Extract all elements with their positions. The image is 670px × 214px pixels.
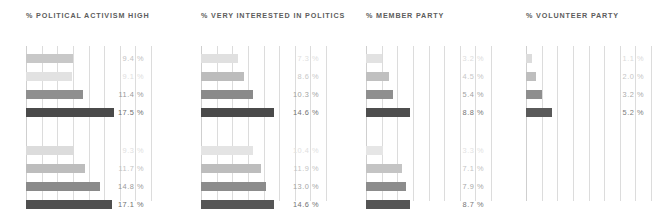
bar-fill — [201, 72, 244, 81]
bar-value-label: 9.4 % — [98, 54, 144, 63]
bar-value-label: 11.9 % — [273, 164, 319, 173]
bar-value-label: 3.3 % — [438, 146, 484, 155]
bar-fill — [201, 54, 238, 63]
bar-value-label: 9.1 % — [98, 72, 144, 81]
bar-fill — [26, 146, 73, 155]
chart-panel: % VOLUNTEER PARTY1.1 %2.0 %3.2 %5.2 % — [500, 0, 670, 214]
bar-fill — [366, 54, 382, 63]
panel-title: % VERY INTERESTED IN POLITICS — [201, 11, 345, 21]
bar-value-label: 3.2 % — [598, 90, 644, 99]
bar-fill — [526, 54, 532, 63]
bar-fill — [526, 90, 542, 99]
bar — [526, 72, 536, 81]
bar-value-label: 1.1 % — [598, 54, 644, 63]
bar — [366, 182, 406, 191]
bar — [201, 90, 253, 99]
bar — [526, 54, 532, 63]
bar-value-label: 5.4 % — [438, 90, 484, 99]
bar-fill — [526, 108, 552, 117]
bar-value-label: 10.4 % — [273, 146, 319, 155]
chart-panel: % MEMBER PARTY3.2 %4.5 %5.4 %8.8 %3.3 %7… — [340, 0, 500, 214]
bar — [366, 146, 383, 155]
bar-fill — [366, 200, 410, 209]
panel-title: % VOLUNTEER PARTY — [526, 11, 619, 21]
bar-value-label: 7.9 % — [438, 182, 484, 191]
bar-fill — [26, 182, 100, 191]
bar — [366, 54, 382, 63]
bar-fill — [201, 108, 274, 117]
bar — [201, 164, 261, 173]
panel-title: % MEMBER PARTY — [366, 11, 444, 21]
bar-value-label: 4.5 % — [438, 72, 484, 81]
bar-value-label: 11.7 % — [98, 164, 144, 173]
bar — [26, 182, 100, 191]
bar-fill — [26, 72, 72, 81]
bar-value-label: 10.3 % — [273, 90, 319, 99]
bar — [201, 146, 253, 155]
bar-fill — [26, 54, 73, 63]
bar-group-container: 1.1 %2.0 %3.2 %5.2 % — [526, 46, 670, 201]
bar-fill — [201, 90, 253, 99]
bar — [366, 108, 410, 117]
bar — [201, 54, 238, 63]
bar-value-label: 8.8 % — [438, 108, 484, 117]
bar-fill — [526, 72, 536, 81]
bar-value-label: 13.0 % — [273, 182, 319, 191]
bar-fill — [26, 90, 83, 99]
bar-value-label: 14.8 % — [98, 182, 144, 191]
chart-panel: % POLITICAL ACTIVISM HIGH9.4 %9.1 %11.4 … — [0, 0, 175, 214]
bar-value-label: 5.2 % — [598, 108, 644, 117]
bar-value-label: 14.6 % — [273, 108, 319, 117]
bar-value-label: 11.4 % — [98, 90, 144, 99]
bar-fill — [201, 182, 266, 191]
bar-fill — [366, 72, 389, 81]
bar-value-label: 17.5 % — [98, 108, 144, 117]
bar-value-label: 8.7 % — [438, 200, 484, 209]
bar — [201, 72, 244, 81]
bar — [526, 90, 542, 99]
bar — [366, 90, 393, 99]
bar-fill — [366, 146, 383, 155]
bar — [366, 72, 389, 81]
bar — [26, 164, 85, 173]
bar — [201, 200, 274, 209]
plot-area: 1.1 %2.0 %3.2 %5.2 % — [526, 46, 670, 201]
bar-value-label: 2.0 % — [598, 72, 644, 81]
bar-fill — [201, 146, 253, 155]
bar — [26, 54, 73, 63]
bar-fill — [366, 182, 406, 191]
bar-value-label: 9.3 % — [98, 146, 144, 155]
bar-fill — [201, 164, 261, 173]
bar — [26, 90, 83, 99]
bar-fill — [366, 108, 410, 117]
bar-value-label: 17.1 % — [98, 200, 144, 209]
bar-value-label: 7.3 % — [273, 54, 319, 63]
bar-value-label: 8.6 % — [273, 72, 319, 81]
bar — [26, 146, 73, 155]
bar-fill — [366, 90, 393, 99]
bar — [526, 108, 552, 117]
bar-fill — [26, 164, 85, 173]
bar-fill — [201, 200, 274, 209]
chart-panel: % VERY INTERESTED IN POLITICS7.3 %8.6 %1… — [175, 0, 340, 214]
small-multiples-chart: % POLITICAL ACTIVISM HIGH9.4 %9.1 %11.4 … — [0, 0, 670, 214]
panel-title: % POLITICAL ACTIVISM HIGH — [26, 11, 149, 21]
bar-value-label: 3.2 % — [438, 54, 484, 63]
bar-value-label: 7.1 % — [438, 164, 484, 173]
bar-fill — [366, 164, 402, 173]
bar-value-label: 14.6 % — [273, 200, 319, 209]
bar — [366, 200, 410, 209]
bar — [201, 108, 274, 117]
bar — [201, 182, 266, 191]
bar — [26, 72, 72, 81]
bar — [366, 164, 402, 173]
